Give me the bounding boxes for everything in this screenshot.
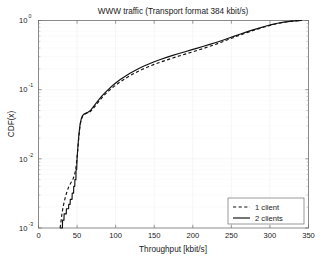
chart-legend[interactable]: 1 client2 clients xyxy=(228,198,304,224)
legend-label-1-client[interactable]: 1 client xyxy=(255,203,280,212)
cdf-line-chart: WWW traffic (Transport format 384 kbit/s… xyxy=(0,0,324,266)
y-tick-label: 10 xyxy=(19,224,27,233)
y-tick-exponent: -3 xyxy=(29,221,34,227)
y-tick-exponent: -2 xyxy=(29,152,34,158)
legend-label-2-clients[interactable]: 2 clients xyxy=(255,214,283,223)
x-tick-label: 50 xyxy=(73,231,81,240)
x-tick-label: 100 xyxy=(109,231,122,240)
x-tick-label: 250 xyxy=(225,231,238,240)
chart-title: WWW traffic (Transport format 384 kbit/s… xyxy=(98,7,249,16)
x-axis-label: Throughput [kbit/s] xyxy=(139,245,207,254)
x-tick-label: 0 xyxy=(36,231,40,240)
y-axis-label: CDF(x) xyxy=(7,111,16,138)
x-tick-label: 150 xyxy=(148,231,161,240)
chart-figure: WWW traffic (Transport format 384 kbit/s… xyxy=(0,0,324,266)
y-tick-label: 10 xyxy=(19,16,27,25)
x-tick-label: 200 xyxy=(186,231,199,240)
y-tick-exponent: 0 xyxy=(29,13,32,19)
x-tick-label: 300 xyxy=(264,231,277,240)
y-tick-label: 10 xyxy=(19,155,27,164)
y-tick-exponent: -1 xyxy=(29,82,34,88)
x-tick-label: 350 xyxy=(302,231,315,240)
figure-background xyxy=(0,0,324,266)
y-tick-label: 10 xyxy=(19,85,27,94)
